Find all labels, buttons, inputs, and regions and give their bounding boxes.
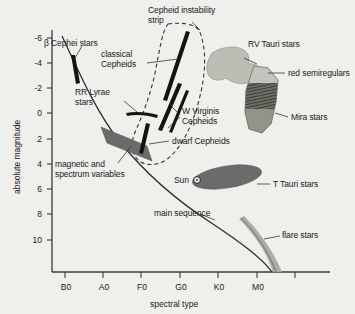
label-w-virginis-cepheids: W Virginis Cepheids xyxy=(182,106,219,126)
y-tick-label-neg2: -2 xyxy=(20,83,42,93)
leader-flare-stars xyxy=(264,236,280,239)
beta-cephei-stars-region xyxy=(71,55,80,84)
label-magnetic-spectrum-variables: magnetic and spectrum variables xyxy=(55,159,125,179)
label-cepheid-instability-strip: Cepheid instability strip xyxy=(148,5,215,25)
label-red-semiregulars: red semiregulars xyxy=(288,68,350,78)
label-mira-stars: Mira stars xyxy=(291,112,327,122)
x-tick-label-f0: F0 xyxy=(133,282,151,292)
flare-stars-region xyxy=(239,216,282,272)
y-tick-label-0: 0 xyxy=(20,108,42,118)
t-tauri-stars-region xyxy=(191,161,264,194)
leader-rr-lyrae xyxy=(124,101,137,112)
y-tick-label-6: 6 xyxy=(20,184,42,194)
y-tick-label-neg6: -6 xyxy=(20,33,42,43)
y-tick-label-4: 4 xyxy=(20,159,42,169)
y-tick-label-10: 10 xyxy=(16,235,42,245)
x-tick-label-g0: G0 xyxy=(172,282,190,292)
x-tick-label-a0: A0 xyxy=(95,282,113,292)
y-axis-title: absolute magnitude xyxy=(12,120,22,194)
label-main-sequence: main sequence xyxy=(154,208,210,218)
mira-stars-region xyxy=(240,109,285,139)
leader-mira-stars xyxy=(275,113,288,117)
y-tick-label-8: 8 xyxy=(20,209,42,219)
label-rr-lyrae-stars: RR Lyrae stars xyxy=(75,87,110,107)
leader-dwarf-cepheids xyxy=(149,141,169,144)
label-t-tauri-stars: T Tauri stars xyxy=(273,179,318,189)
y-tick-label-2: 2 xyxy=(20,134,42,144)
label-flare-stars: flare stars xyxy=(282,230,318,240)
label-classical-cepheids: classical Cepheids xyxy=(101,49,136,69)
x-tick-label-b0: B0 xyxy=(57,282,75,292)
hr-diagram-figure: -6 -4 -2 0 2 4 6 8 10 B0 A0 F0 G0 K0 M0 … xyxy=(0,0,355,314)
sun-marker xyxy=(194,177,201,184)
label-rv-tauri-stars: RV Tauri stars xyxy=(248,39,300,49)
leader-classical-cepheids xyxy=(147,59,178,63)
x-tick-label-m0: M0 xyxy=(249,282,267,292)
label-sun: Sun xyxy=(174,175,189,185)
x-axis-ticks xyxy=(65,272,295,278)
rr-lyrae-stars-region xyxy=(126,112,158,118)
y-tick-label-neg4: -4 xyxy=(20,58,42,68)
x-tick-label-k0: K0 xyxy=(210,282,228,292)
label-beta-cephei-stars: β Cephei stars xyxy=(44,38,98,48)
x-axis-title: spectral type xyxy=(150,299,198,309)
label-dwarf-cepheids: dwarf Cepheids xyxy=(172,136,230,146)
y-axis-ticks xyxy=(47,38,52,240)
